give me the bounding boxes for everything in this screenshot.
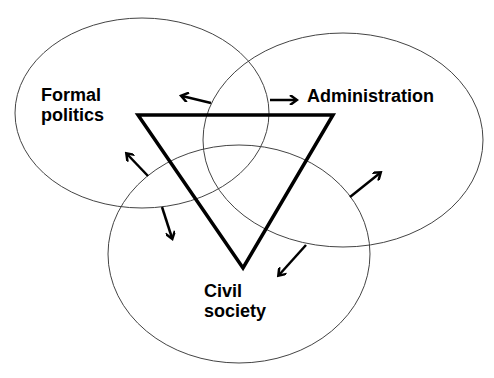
label-civil-line2: society — [204, 301, 266, 321]
label-administration: Administration — [307, 86, 434, 106]
label-civil-society: Civil society — [204, 281, 266, 321]
arrow-down-icon — [162, 207, 172, 238]
arrow-down-left-icon — [279, 245, 306, 275]
arrow-up-right-icon — [350, 173, 380, 197]
label-administration-text: Administration — [307, 86, 434, 106]
arrow-up-left-icon — [127, 154, 148, 176]
label-formal-line1: Formal — [41, 85, 104, 105]
diagram-canvas — [0, 0, 494, 378]
triangle — [138, 115, 333, 268]
triangle-group — [138, 115, 333, 268]
ellipse-civil-society — [108, 145, 370, 363]
label-formal-line2: politics — [41, 105, 104, 125]
label-civil-line1: Civil — [204, 281, 266, 301]
ellipse-administration — [203, 33, 483, 247]
label-formal-politics: Formal politics — [41, 85, 104, 125]
arrow-left-icon — [182, 96, 211, 103]
